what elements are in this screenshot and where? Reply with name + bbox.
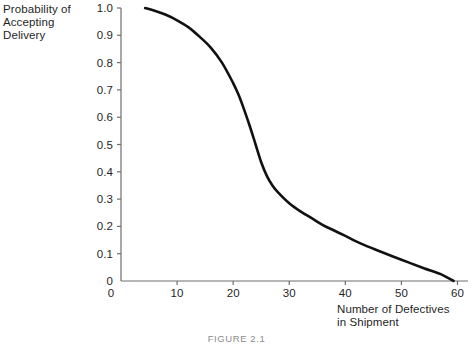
x-tick-label: 40 [339, 287, 352, 299]
y-tick-label: 0.1 [97, 248, 113, 260]
y-tick-label: 0.2 [97, 220, 113, 232]
figure-container: Probability of Accepting Delivery 00.10.… [0, 0, 473, 344]
y-tick-label: 0.5 [97, 139, 113, 151]
chart-plot-area: 00.10.20.30.40.50.60.70.80.91.0 01020304… [0, 0, 473, 344]
y-tick-label: 0.4 [97, 166, 114, 178]
y-tick-label: 1.0 [97, 2, 113, 14]
x-tick-labels: 0102030405060 [108, 287, 464, 299]
y-tick-label: 0.9 [97, 29, 113, 41]
oc-curve-line [145, 8, 453, 281]
y-tick-label: 0 [107, 275, 114, 287]
y-tick-label: 0.6 [97, 111, 113, 123]
x-axis-title: Number of Defectives in Shipment [337, 303, 473, 329]
x-tick-label: 30 [283, 287, 296, 299]
figure-caption: FIGURE 2.1 [0, 333, 473, 344]
x-tick-label: 10 [171, 287, 184, 299]
axis-lines [121, 8, 468, 281]
y-tick-label: 0.3 [97, 193, 113, 205]
x-tick-label: 20 [227, 287, 240, 299]
x-tick-label: 50 [395, 287, 408, 299]
y-tick-label: 0.7 [97, 84, 113, 96]
x-tick-label: 0 [108, 287, 115, 299]
y-tick-label: 0.8 [97, 57, 113, 69]
y-tick-labels: 00.10.20.30.40.50.60.70.80.91.0 [97, 2, 114, 287]
x-tick-label: 60 [451, 287, 464, 299]
